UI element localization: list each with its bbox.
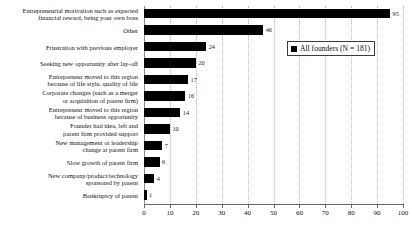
- bar-value-label: 24: [209, 40, 215, 53]
- bar-value-label: 14: [183, 106, 189, 119]
- bar-row: 4: [144, 171, 403, 188]
- bar: [144, 190, 147, 200]
- x-tick-label-20: 20: [192, 209, 199, 218]
- bar: [144, 174, 154, 184]
- category-label: Entrepreneurial motivation such as expec…: [22, 7, 138, 22]
- legend: All founders (N = 181): [287, 41, 375, 56]
- x-tick-10: [170, 204, 171, 208]
- category-label: New management or leadership change at p…: [56, 139, 138, 154]
- x-tick-80: [351, 204, 352, 208]
- bar-row: 1: [144, 188, 403, 205]
- x-tick-label-80: 80: [348, 209, 355, 218]
- bar-row: 46: [144, 23, 403, 40]
- bar-value-label: 20: [198, 56, 204, 69]
- x-tick-30: [222, 204, 223, 208]
- x-tick-label-90: 90: [374, 209, 381, 218]
- bar: [144, 157, 160, 167]
- category-label: Founder had idea, left and parent firm p…: [63, 122, 138, 137]
- legend-swatch-icon: [291, 46, 297, 52]
- bar-value-label: 4: [157, 172, 160, 185]
- legend-label: All founders (N = 181): [300, 44, 370, 53]
- bar-row: 16: [144, 89, 403, 106]
- bar-row: 14: [144, 105, 403, 122]
- x-tick-20: [196, 204, 197, 208]
- gridline-100: [403, 6, 404, 204]
- bar-row: 95: [144, 6, 403, 23]
- bar-value-label: 17: [191, 73, 197, 86]
- x-tick-label-100: 100: [398, 209, 409, 218]
- x-tick-label-30: 30: [218, 209, 225, 218]
- plot-area: 95462420171614107641: [144, 6, 403, 204]
- category-label: New company/product/technology sponsored…: [48, 172, 138, 187]
- x-tick-label-0: 0: [142, 209, 146, 218]
- bar-chart: Entrepreneurial motivation such as expec…: [0, 0, 412, 229]
- category-label: Other: [123, 27, 138, 34]
- category-label: Seeking new opportunity after lay-off: [40, 60, 138, 67]
- x-tick-70: [325, 204, 326, 208]
- bar-value-label: 46: [266, 23, 272, 36]
- x-tick-label-60: 60: [296, 209, 303, 218]
- bar-row: 6: [144, 155, 403, 172]
- x-tick-label-70: 70: [322, 209, 329, 218]
- category-label: Corporate changes (such as a merger or a…: [42, 89, 138, 104]
- x-tick-40: [248, 204, 249, 208]
- category-label: Bankruptcy of parent: [83, 192, 138, 199]
- bar-value-label: 16: [188, 89, 194, 102]
- bar-value-label: 1: [149, 188, 152, 201]
- bar-row: 20: [144, 56, 403, 73]
- bar: [144, 58, 196, 68]
- x-tick-60: [299, 204, 300, 208]
- bar: [144, 9, 390, 19]
- x-tick-90: [377, 204, 378, 208]
- bar-rows: 95462420171614107641: [144, 6, 403, 204]
- x-tick-100: [403, 204, 404, 208]
- x-tick-label-40: 40: [244, 209, 251, 218]
- bar: [144, 42, 206, 52]
- bar: [144, 91, 185, 101]
- bar-value-label: 95: [393, 7, 399, 20]
- category-label: Slow growth of parent firm: [67, 159, 138, 166]
- x-tick-50: [274, 204, 275, 208]
- bar-row: 7: [144, 138, 403, 155]
- bar: [144, 75, 188, 85]
- x-tick-label-50: 50: [270, 209, 277, 218]
- bar-row: 10: [144, 122, 403, 139]
- bar: [144, 141, 162, 151]
- x-tick-label-10: 10: [166, 209, 173, 218]
- bar: [144, 25, 263, 35]
- category-label: Entrepreneur moved to this region becaus…: [48, 73, 138, 88]
- bar-value-label: 7: [165, 139, 168, 152]
- x-tick-0: [144, 204, 145, 208]
- bar-row: 17: [144, 72, 403, 89]
- bar-value-label: 6: [162, 155, 165, 168]
- category-axis-labels: Entrepreneurial motivation such as expec…: [0, 6, 141, 204]
- bar: [144, 124, 170, 134]
- category-label: Entrepreneur moved to this region becaus…: [49, 106, 138, 121]
- category-label: Frustration with previous employer: [46, 44, 138, 51]
- bar: [144, 108, 180, 118]
- bar-value-label: 10: [172, 122, 178, 135]
